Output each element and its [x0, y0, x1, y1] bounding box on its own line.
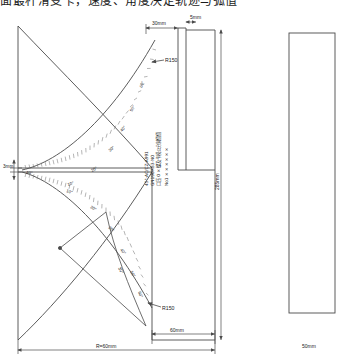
dim-bottom-overall [18, 340, 215, 354]
center-note-line-4: No1 × × × × × × [164, 147, 169, 186]
dim-label-top-left: 30mm [152, 20, 166, 26]
lower-arc-ticks [25, 173, 151, 304]
dim-label-bottom-inner: 60mm [170, 327, 184, 333]
tick-label-dn-4: 50° [129, 270, 137, 278]
tick-label-up-3: 40° [119, 124, 127, 132]
strip-shape [152, 28, 215, 340]
tick-label-up-2: 30° [107, 145, 115, 153]
dim-label-left-vertex: 3mm [3, 164, 13, 169]
tick-label-dn-0: 10° [66, 188, 74, 195]
center-note-line-1: 45°-AC/CZ-A991 [144, 151, 149, 186]
vertex-angle-label: 40° [26, 170, 33, 175]
tick-label-up-5: 60° [138, 80, 145, 88]
dim-label-right-vertical: 285mm [214, 173, 220, 190]
dim-label-top-right: 5mm [190, 14, 201, 20]
tick-label-dn-5: 60° [137, 291, 144, 299]
inner-angle-construction [58, 212, 146, 326]
center-note-block: 45°-AC/CZ-A991 GN190RB3-N0 口压 0 × 螺及卡模公分… [144, 131, 169, 186]
radius-label-upper: R150 [165, 57, 178, 63]
upper-protractor-arc [22, 40, 155, 170]
far-right-block [289, 33, 335, 313]
center-note-line-2: GN190RB3-N0 [150, 155, 155, 186]
tick-label-dn-2: 30° [107, 225, 115, 233]
radius-leader-upper [152, 60, 164, 62]
tick-label-dn-1: 20° [90, 204, 98, 212]
drawing-canvas: 面最杆滑变卡，速度、角度决定轨迹与弧值 [0, 0, 343, 358]
technical-drawing-svg: 10° 20° 30° 40° 50° 60° 10° 20° 30° 40° … [0, 0, 343, 358]
vertex-angle-group: 40° [26, 170, 33, 175]
dim-left-vertex [10, 160, 22, 180]
far-right-block-label: 50mm [302, 343, 316, 349]
tick-label-dn-3: 40° [119, 247, 127, 255]
dim-label-bottom-overall: R=60mm [96, 343, 116, 349]
inner-angle-label: 30° [117, 266, 125, 275]
lower-protractor-arc [22, 172, 152, 308]
tick-label-up-0: 10° [67, 180, 75, 187]
lower-tick-labels: 10° 20° 30° 40° 50° 60° [66, 188, 145, 298]
radius-label-lower: R150 [162, 305, 175, 311]
tick-label-up-4: 50° [129, 104, 137, 112]
center-note-line-3: 口压 0 × 螺及卡模公分别值值 [155, 131, 162, 186]
upper-tick-labels: 10° 20° 30° 40° 50° 60° [67, 80, 146, 187]
